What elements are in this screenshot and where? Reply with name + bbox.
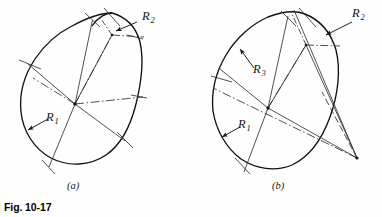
- label-r2-b-sub: 2: [360, 12, 364, 22]
- apex-line-b-3: [268, 108, 357, 158]
- centerline-b-r2-up: [292, 14, 306, 45]
- panel-b-drawing: [211, 8, 359, 174]
- leader-r1-a: [28, 119, 48, 130]
- label-r1-b-sub: 1: [246, 123, 250, 133]
- label-r2-panel-b: R2: [352, 6, 364, 21]
- label-r2-panel-a: R2: [142, 9, 154, 24]
- sublabel-panel-a: (a): [67, 180, 79, 191]
- panel-a-drawing: [19, 8, 147, 174]
- figure-drawing-canvas: [0, 0, 382, 217]
- arc-r2-a: [92, 13, 112, 26]
- label-r3-b-base: R: [253, 62, 261, 76]
- center-point-a-r2: [111, 34, 114, 37]
- centerline-a-horizontal: [75, 97, 143, 104]
- figure-10-17: R2 R1 R2 R3 R1 (a) (b) Fig. 10-17: [0, 0, 382, 217]
- label-r2-b-base: R: [352, 6, 360, 20]
- label-r1-a-base: R: [46, 110, 54, 124]
- center-point-b-r2: [305, 44, 308, 47]
- centerline-a-r2-up: [99, 16, 112, 35]
- label-r1-panel-a: R1: [46, 110, 58, 125]
- figure-caption: Fig. 10-17: [4, 201, 51, 213]
- radial-line-a-3: [28, 64, 75, 104]
- apex-point-b: [355, 156, 358, 159]
- tick-mark-a-5: [104, 8, 120, 26]
- leader-r2-a: [116, 22, 137, 31]
- label-r2-a-sub: 2: [150, 15, 154, 25]
- centerline-a-to-r2: [75, 35, 112, 104]
- center-point-a: [73, 102, 76, 105]
- label-r1-a-sub: 1: [54, 116, 58, 126]
- label-r3-b-sub: 3: [261, 68, 265, 78]
- outline-curve-b: [213, 12, 339, 169]
- radial-line-a-5: [75, 104, 125, 141]
- label-r2-a-base: R: [142, 9, 150, 23]
- apex-line-b-2: [294, 10, 357, 158]
- center-point-b: [266, 106, 269, 109]
- label-r1-b-base: R: [238, 117, 246, 131]
- label-r3-panel-b: R3: [253, 62, 265, 77]
- tick-mark-a-2: [42, 160, 55, 174]
- radial-line-b-2: [268, 16, 288, 108]
- sublabel-panel-b: (b): [272, 180, 284, 191]
- radial-line-a-2: [75, 20, 93, 104]
- leader-r3-b: [240, 49, 254, 68]
- leader-r2-b: [326, 22, 352, 35]
- label-r1-panel-b: R1: [238, 117, 250, 132]
- centerline-a-diagonal: [33, 78, 75, 104]
- tick-mark-b-1: [211, 76, 232, 82]
